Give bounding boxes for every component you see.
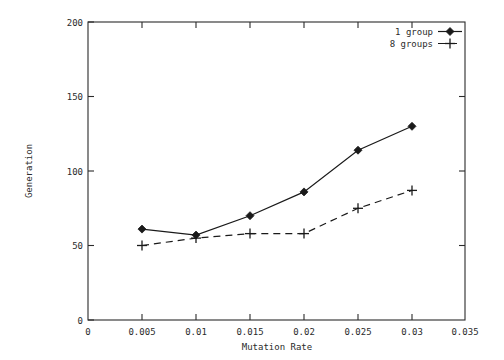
- x-tick-label-0025: 0.025: [344, 327, 371, 337]
- x-tick-label-003: 0.03: [401, 327, 423, 337]
- x-tick-label-001: 0.01: [185, 327, 207, 337]
- data-point-marker: [137, 241, 147, 251]
- x-tick-label-0015: 0.015: [236, 327, 263, 337]
- x-axis-title: Mutation Rate: [242, 342, 312, 352]
- x-tick-label-0035: 0.035: [451, 327, 478, 337]
- data-point-marker: [408, 122, 416, 130]
- chart-container: 0 50 100 150 200 0 0.005 0.01 0.015 0.02: [0, 0, 504, 360]
- series-1-group-line: [142, 126, 412, 235]
- x-tick-label-002: 0.02: [293, 327, 315, 337]
- line-chart-svg: 0 50 100 150 200 0 0.005 0.01 0.015 0.02: [0, 0, 504, 360]
- legend-label-8-groups: 8 groups: [390, 39, 433, 49]
- chart-legend: 1 group 8 groups: [390, 27, 462, 49]
- y-axis-title: Generation: [24, 144, 34, 198]
- y-axis: 0 50 100 150 200: [67, 18, 465, 326]
- data-point-marker: [299, 229, 309, 239]
- x-axis: 0 0.005 0.01 0.015 0.02 0.025 0.03 0.035: [85, 22, 478, 337]
- data-point-marker: [353, 203, 363, 213]
- series-8-groups-line: [142, 190, 412, 245]
- plot-frame: [88, 22, 465, 320]
- legend-swatch-marker-8-groups: [445, 39, 455, 49]
- data-point-marker: [245, 229, 255, 239]
- data-point-marker: [246, 212, 254, 220]
- y-tick-label-100: 100: [67, 167, 83, 177]
- data-point-marker: [407, 185, 417, 195]
- y-tick-label-0: 0: [78, 316, 83, 326]
- series-1-group: [138, 122, 416, 239]
- y-tick-label-150: 150: [67, 92, 83, 102]
- legend-swatch-marker-1-group: [446, 28, 454, 36]
- legend-label-1-group: 1 group: [395, 27, 433, 37]
- series-8-groups: [137, 185, 417, 250]
- y-tick-label-50: 50: [72, 241, 83, 251]
- y-tick-label-200: 200: [67, 18, 83, 28]
- x-tick-label-0005: 0.005: [128, 327, 155, 337]
- x-tick-label-0: 0: [85, 327, 90, 337]
- data-point-marker: [138, 225, 146, 233]
